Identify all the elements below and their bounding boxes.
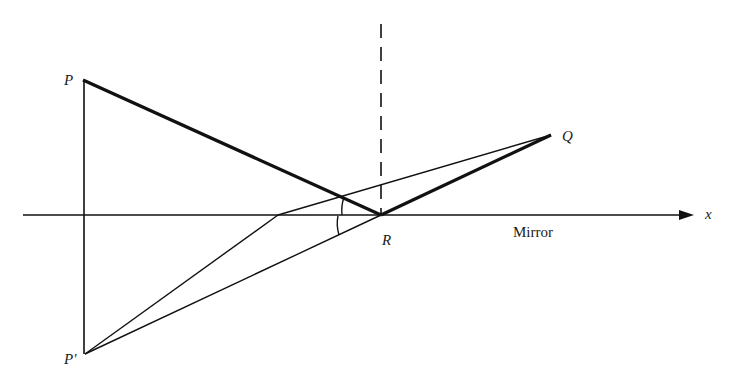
label-mirror: Mirror: [513, 224, 553, 240]
reflection-diagram: P P' R Q x Mirror: [0, 0, 734, 387]
label-x-axis: x: [704, 206, 712, 222]
incident-ray: [83, 80, 381, 215]
reflected-ray: [381, 135, 551, 215]
label-P-prime: P': [63, 351, 77, 367]
image-to-A-line: [85, 215, 278, 354]
image-to-R-line: [85, 215, 381, 354]
angle-below-mirror-arc: [337, 216, 339, 235]
A-to-Q-line: [278, 135, 551, 215]
label-P: P: [63, 72, 73, 88]
angle-above-mirror-arc: [342, 197, 344, 215]
axis-arrowhead-icon: [679, 210, 694, 220]
label-Q: Q: [562, 128, 573, 144]
label-R: R: [381, 232, 391, 248]
